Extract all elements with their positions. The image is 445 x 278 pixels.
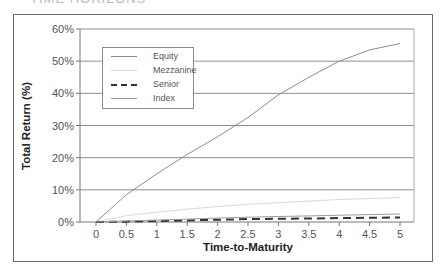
line-chart: 0%10%20%30%40%50%60% 00.511.522.533.544.… [0,0,445,278]
x-tick-label: 4 [336,228,342,240]
legend-item-equity: Equity [103,50,193,63]
series-line-index [96,214,400,222]
y-tick-label: 20% [52,152,74,164]
y-tick-label: 30% [52,120,74,132]
legend-item-mezzanine: Mezzanine [103,64,193,77]
x-axis-label: Time-to-Maturity [203,241,293,253]
y-tick-label: 40% [52,87,74,99]
x-axis-ticks: 00.511.522.533.544.55 [93,228,403,240]
legend-swatch-icon [111,70,137,71]
y-axis-ticks: 0%10%20%30%40%50%60% [52,23,74,228]
legend-label: Senior [153,79,179,89]
x-tick-label: 0 [93,228,99,240]
x-tick-label: 4.5 [362,228,377,240]
y-tick-label: 50% [52,55,74,67]
x-tick-label: 2 [215,228,221,240]
legend-label: Mezzanine [153,65,197,75]
y-axis-label: Total Return (%) [20,82,32,170]
x-tick-label: 0.5 [119,228,134,240]
x-tick-label: 2.5 [240,228,255,240]
y-tick-label: 60% [52,23,74,35]
y-tick-label: 10% [52,184,74,196]
series-line-senior [96,218,400,223]
y-tick-label: 0% [58,216,74,228]
legend-swatch-icon [111,98,137,99]
x-tick-label: 3.5 [301,228,316,240]
legend-label: Index [153,93,175,103]
legend: Equity Mezzanine Senior Index [102,47,194,109]
legend-item-index: Index [103,92,193,105]
x-tick-label: 5 [397,228,403,240]
legend-swatch-icon [111,56,137,57]
x-tick-label: 1.5 [180,228,195,240]
legend-label: Equity [153,51,178,61]
x-tick-label: 3 [275,228,281,240]
series-line-mezzanine [96,198,400,222]
x-tick-label: 1 [154,228,160,240]
legend-swatch-icon [111,84,137,86]
legend-item-senior: Senior [103,78,193,91]
